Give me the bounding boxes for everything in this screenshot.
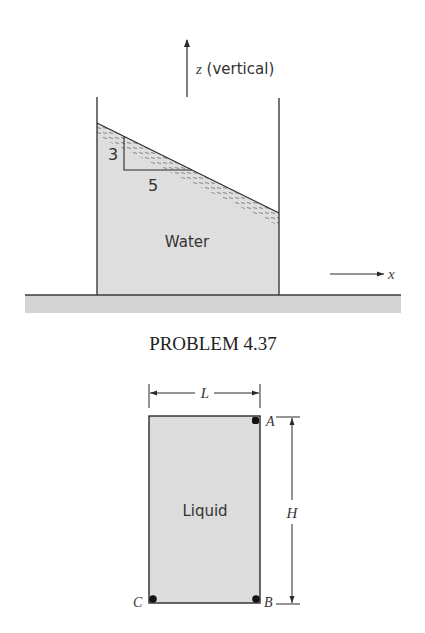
tank-figure: z (vertical) 3 5 Water x [25,40,401,313]
height-label-h: H [286,505,299,521]
point-b-marker [252,595,260,603]
container-figure: L Liquid A B C H [133,384,300,610]
width-label-l: L [200,385,209,401]
problem-caption: PROBLEM 4.37 [149,333,277,354]
z-axis-label: z (vertical) [195,60,274,78]
point-c-marker [149,595,157,603]
point-a-marker [252,417,259,424]
point-b-label: B [264,595,273,610]
diagram-canvas: z (vertical) 3 5 Water x PROBLEM 4.37 L [0,0,425,633]
liquid-label: Liquid [182,502,227,520]
point-c-label: C [133,595,143,610]
slope-rise-label: 3 [108,145,118,164]
x-axis-label: x [387,266,395,282]
point-a-label: A [265,414,275,429]
water-label: Water [165,233,210,251]
slope-run-label: 5 [148,176,158,195]
ground [25,295,401,313]
